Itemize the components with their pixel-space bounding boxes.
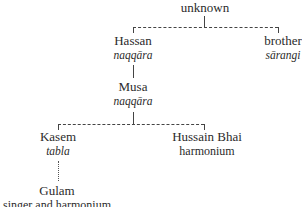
node-name: Kasem [40,129,76,144]
node-role: sārangi [264,48,302,63]
node-name: brother [264,33,302,48]
node-role: harmonium [172,144,242,159]
node-kasem: Kasem tabla [40,129,76,159]
node-name: Musa [114,79,153,94]
node-role: naqqāra [114,94,153,109]
node-unknown: unknown [181,0,229,15]
connector-root-stem [204,16,205,27]
connector-hassan-musa [133,65,134,78]
node-name: Hassan [114,33,153,48]
node-name: unknown [181,0,229,15]
node-musa: Musa naqqāra [114,79,153,109]
node-gulam: Gulam singer and harmonium [3,183,111,207]
connector-generation-1 [133,27,278,28]
node-name: Gulam [3,183,111,198]
node-role: naqqāra [114,48,153,63]
node-hussain-bhai: Hussain Bhai harmonium [172,129,242,159]
connector-kasem-gulam [58,161,59,181]
node-name: Hussain Bhai [172,129,242,144]
connector-musa-stem [133,112,134,124]
connector-generation-3 [58,124,204,125]
node-role: tabla [40,144,76,159]
node-role: singer and harmonium [3,198,111,207]
node-hassan: Hassan naqqāra [114,33,153,63]
node-brother: brother sārangi [264,33,302,63]
